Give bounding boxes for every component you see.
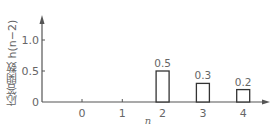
x-axis-arrow-icon (262, 100, 270, 105)
x-tick-label: 2 (159, 107, 166, 120)
x-tick-label: 1 (119, 107, 126, 120)
x-tick-label: 3 (199, 107, 206, 120)
bar-value-label: 0.2 (235, 76, 252, 88)
x-tick-label: 0 (79, 107, 86, 120)
x-tick-label: 4 (240, 107, 247, 120)
bar-chart: 00.51.00120.530.340.2n (0, 0, 273, 129)
y-axis-arrow-icon (40, 15, 45, 24)
y-tick-label: 0.5 (22, 65, 40, 78)
x-axis-label: n (145, 115, 151, 126)
bar-value-label: 0.3 (195, 69, 212, 81)
labels: 00.51.00120.530.340.2n (22, 34, 252, 126)
bar (156, 71, 169, 102)
bar (237, 90, 250, 102)
bar-value-label: 0.5 (154, 57, 171, 69)
bar (196, 83, 209, 102)
y-tick-label: 0 (32, 96, 39, 109)
y-tick-label: 1.0 (22, 34, 40, 47)
